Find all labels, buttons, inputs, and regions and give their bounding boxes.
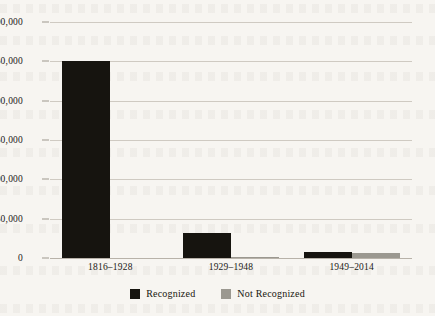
y-axis-tick-mark xyxy=(42,22,49,23)
bar-not-recognized xyxy=(352,253,400,258)
bar-group xyxy=(50,22,171,258)
y-axis-tick-mark xyxy=(42,218,49,219)
y-axis-tick-label: 0 xyxy=(0,253,23,263)
bar-not-recognized xyxy=(231,257,279,258)
y-axis-tick-label: 100,000 xyxy=(0,174,23,184)
chart-legend: RecognizedNot Recognized xyxy=(0,288,435,299)
legend-item: Not Recognized xyxy=(221,288,305,299)
bar-groups xyxy=(50,22,412,258)
bar-group xyxy=(291,22,412,258)
bar-recognized xyxy=(304,252,352,258)
y-axis-tick-mark xyxy=(42,100,49,101)
y-axis-tick-mark xyxy=(42,61,49,62)
bar-group xyxy=(171,22,292,258)
y-axis-tick-label: 50,000 xyxy=(0,214,23,224)
y-axis-tick-label: 200,000 xyxy=(0,96,23,106)
x-axis-labels: 1816–19281929–19481949–2014 xyxy=(50,262,412,272)
bar-recognized xyxy=(62,61,110,258)
x-axis-label: 1949–2014 xyxy=(291,262,412,272)
y-axis-tick-label: 250,000 xyxy=(0,56,23,66)
x-axis-label: 1816–1928 xyxy=(50,262,171,272)
y-axis-tick-mark xyxy=(42,258,49,259)
legend-swatch-recognized xyxy=(130,289,140,299)
y-axis-tick-label: 150,000 xyxy=(0,135,23,145)
y-axis-tick-mark xyxy=(42,179,49,180)
legend-swatch-notrecognized xyxy=(221,289,231,299)
scan-bleed-artifact xyxy=(0,4,435,13)
gridline xyxy=(50,258,412,259)
legend-label: Recognized xyxy=(146,288,195,299)
legend-label: Not Recognized xyxy=(237,288,305,299)
x-axis-label: 1929–1948 xyxy=(171,262,292,272)
y-axis-tick-label: 300,000 xyxy=(0,17,23,27)
chart-page: 050,000100,000150,000200,000250,000300,0… xyxy=(0,0,435,316)
scan-bleed-artifact xyxy=(0,304,435,313)
legend-item: Recognized xyxy=(130,288,195,299)
bar-recognized xyxy=(183,233,231,258)
y-axis-tick-mark xyxy=(42,140,49,141)
